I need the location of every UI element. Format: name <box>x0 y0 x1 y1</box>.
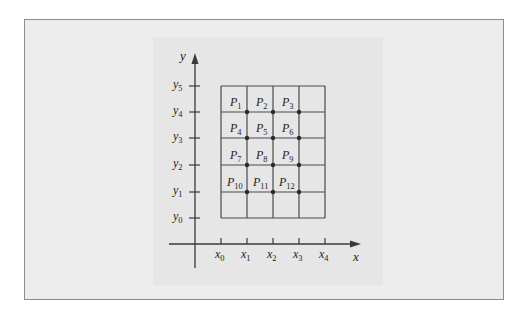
grid-point-label: P6 <box>281 121 294 137</box>
y-tick-label: y1 <box>172 183 183 199</box>
y-tick-label-subscript: 5 <box>178 84 182 93</box>
grid-point-label-subscript: 11 <box>260 182 268 191</box>
x-tick-label: x4 <box>318 247 329 263</box>
grid-point-label-subscript: 8 <box>263 155 267 164</box>
x-tick-label-subscript: 2 <box>272 254 276 263</box>
grid-point-label-subscript: 9 <box>289 155 293 164</box>
y-tick-label: y2 <box>172 156 183 172</box>
x-tick-label-subscript: 3 <box>298 254 302 263</box>
grid-point-label-subscript: 7 <box>237 155 241 164</box>
y-tick-label: y0 <box>172 209 183 225</box>
x-tick-label: x2 <box>266 247 277 263</box>
grid-point-label: P3 <box>281 95 294 111</box>
y-axis-arrow-icon <box>192 53 199 64</box>
grid-point-label-subscript: 2 <box>263 102 267 111</box>
x-axis-label: x <box>352 249 359 264</box>
grid-point-label: P2 <box>255 95 268 111</box>
grid-point-marker <box>245 163 249 167</box>
grid-point-label-subscript: 3 <box>289 102 293 111</box>
y-tick-label-subscript: 1 <box>178 190 182 199</box>
grid-diagram: x0x1x2x3x4y0y1y2y3y4y5 P1P2P3P4P5P6P7P8P… <box>0 0 530 319</box>
grid-point-label: P9 <box>281 148 294 164</box>
grid-point-marker <box>271 136 275 140</box>
grid-point-marker <box>297 190 301 194</box>
grid-point-label-subscript: 4 <box>237 128 242 137</box>
grid-point-label: P4 <box>229 121 242 137</box>
grid-point-marker <box>271 163 275 167</box>
grid-point-marker <box>245 110 249 114</box>
grid-point-label-subscript: 12 <box>286 182 294 191</box>
y-tick-label: y4 <box>172 103 183 119</box>
x-tick-label: x1 <box>240 247 251 263</box>
axis-labels: x y <box>178 48 359 264</box>
y-tick-label-subscript: 3 <box>178 136 182 145</box>
grid-point-marker <box>271 110 275 114</box>
x-tick-label-subscript: 1 <box>246 254 250 263</box>
y-axis-label: y <box>178 48 186 63</box>
y-tick-label: y5 <box>172 77 183 93</box>
x-tick-label: x0 <box>214 247 225 263</box>
y-tick-label-subscript: 2 <box>178 163 182 172</box>
grid-point-label: P5 <box>255 121 268 137</box>
y-tick-label-subscript: 4 <box>178 110 183 119</box>
x-tick-label-subscript: 0 <box>220 254 224 263</box>
grid-point-marker <box>245 136 249 140</box>
grid-point-label: P8 <box>255 148 268 164</box>
grid-points: P1P2P3P4P5P6P7P8P9P10P11P12 <box>226 95 301 194</box>
grid-point-label: P1 <box>229 95 242 111</box>
grid-point-label: P12 <box>278 175 295 191</box>
grid-point-marker <box>297 163 301 167</box>
grid-point-label: P7 <box>229 148 242 164</box>
grid-point-label-subscript: 10 <box>234 182 242 191</box>
x-tick-label: x3 <box>292 247 303 263</box>
x-axis-arrow-icon <box>350 241 361 248</box>
y-tick-label-subscript: 0 <box>178 216 182 225</box>
grid-point-marker <box>271 190 275 194</box>
y-tick-label: y3 <box>172 129 183 145</box>
grid-point-marker <box>245 190 249 194</box>
grid-point-marker <box>297 136 301 140</box>
grid-point-label-subscript: 6 <box>289 128 293 137</box>
grid-point-label: P10 <box>226 175 243 191</box>
grid-point-label-subscript: 1 <box>237 102 241 111</box>
grid-point-label: P11 <box>252 175 268 191</box>
grid-point-label-subscript: 5 <box>263 128 267 137</box>
grid-point-marker <box>297 110 301 114</box>
x-tick-label-subscript: 4 <box>324 254 329 263</box>
